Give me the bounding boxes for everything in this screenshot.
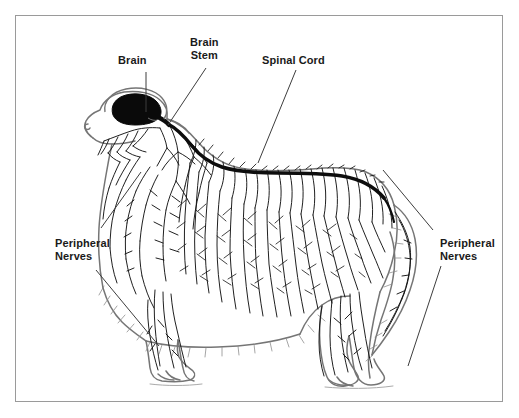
label-brain-stem: Brain Stem [190,36,219,62]
brain-structure [105,88,167,125]
leader-peripheral-left-upper [101,172,141,228]
nervous-system-illustration [0,0,519,418]
label-brain: Brain [118,54,147,67]
label-spinal-cord: Spinal Cord [262,54,325,67]
peripheral-nerves [98,126,412,376]
label-peripheral-nerves-right: Peripheral Nerves [440,237,495,263]
label-peripheral-nerves-left: Peripheral Nerves [55,237,110,263]
leader-peripheral-left-lower [96,270,159,346]
leader-spinal-cord [258,70,296,163]
figure-root: Brain Brain Stem Spinal Cord Peripheral … [0,0,519,418]
spinal-nerve-roots [190,140,392,228]
leader-brain-stem [168,68,206,125]
